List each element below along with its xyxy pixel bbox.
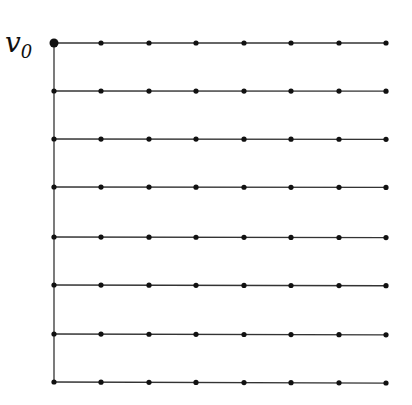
graph-node <box>288 235 293 240</box>
graph-node <box>193 40 198 45</box>
graph-node <box>336 332 341 337</box>
graph-node <box>193 185 198 190</box>
row-edge <box>54 237 386 238</box>
graph-node <box>241 380 246 385</box>
edges <box>54 43 386 383</box>
graph-node <box>98 283 103 288</box>
graph-node <box>383 332 388 337</box>
graph-node <box>241 40 246 45</box>
graph-node <box>146 88 151 93</box>
graph-node <box>241 283 246 288</box>
graph-node <box>336 89 341 94</box>
graph-node <box>241 88 246 93</box>
graph-node <box>336 137 341 142</box>
graph-node <box>383 235 388 240</box>
graph-node <box>241 235 246 240</box>
root-label: v0 <box>5 26 32 62</box>
graph-node <box>383 380 388 385</box>
graph-node <box>98 136 103 141</box>
graph-node <box>336 283 341 288</box>
graph-node <box>288 283 293 288</box>
graph-node <box>193 88 198 93</box>
root-node <box>50 39 59 48</box>
graph-node <box>51 379 56 384</box>
graph-node <box>383 283 388 288</box>
graph-node <box>146 185 151 190</box>
graph-node <box>288 137 293 142</box>
graph-node <box>193 235 198 240</box>
graph-node <box>51 331 56 336</box>
graph-node <box>98 184 103 189</box>
graph-node <box>288 185 293 190</box>
graph-node <box>193 137 198 142</box>
graph-node <box>51 234 56 239</box>
graph-node <box>51 136 56 141</box>
graph-node <box>146 283 151 288</box>
graph-node <box>98 88 103 93</box>
graph-node <box>98 380 103 385</box>
graph-node <box>193 283 198 288</box>
graph-node <box>98 40 103 45</box>
graph-node <box>383 40 388 45</box>
graph-node <box>51 184 56 189</box>
graph-node <box>98 332 103 337</box>
graph-node <box>241 137 246 142</box>
graph-node <box>98 234 103 239</box>
graph-node <box>146 40 151 45</box>
graph-node <box>241 332 246 337</box>
graph-node <box>383 185 388 190</box>
graph-node <box>193 332 198 337</box>
graph-node <box>146 136 151 141</box>
graph-node <box>146 380 151 385</box>
graph-node <box>241 185 246 190</box>
graph-node <box>193 380 198 385</box>
graph-node <box>336 40 341 45</box>
graph-node <box>51 88 56 93</box>
row-edge <box>54 334 386 335</box>
row-edge <box>54 382 386 383</box>
graph-node <box>146 235 151 240</box>
graph-node <box>288 332 293 337</box>
graph-node <box>51 282 56 287</box>
comb-graph: v0 <box>0 0 412 405</box>
graph-node <box>288 380 293 385</box>
graph-node <box>146 332 151 337</box>
graph-node <box>383 137 388 142</box>
graph-node <box>336 235 341 240</box>
graph-node <box>288 89 293 94</box>
graph-node <box>288 40 293 45</box>
graph-node <box>383 89 388 94</box>
graph-node <box>336 380 341 385</box>
graph-node <box>336 185 341 190</box>
row-edge <box>54 285 386 286</box>
